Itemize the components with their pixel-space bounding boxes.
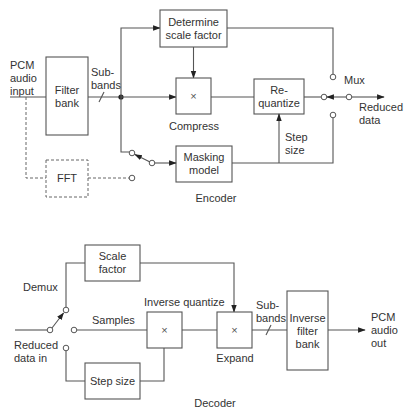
demux-label: Demux bbox=[23, 281, 58, 293]
svg-text:Masking: Masking bbox=[184, 151, 225, 163]
mux-pivot bbox=[346, 94, 352, 100]
switch-arm bbox=[135, 155, 150, 163]
encoder-title: Encoder bbox=[196, 192, 237, 204]
mux-label: Mux bbox=[344, 74, 365, 86]
switch-pivot bbox=[149, 160, 155, 166]
svg-text:size: size bbox=[285, 144, 305, 156]
encoder-input-label: PCM audio input bbox=[10, 59, 37, 97]
switch-contact-subbands bbox=[129, 150, 135, 156]
decoder-section: Demux Reduced data in Scale factor Sampl… bbox=[14, 245, 398, 409]
to-switch-line bbox=[121, 97, 129, 152]
expand-label: Expand bbox=[216, 352, 253, 364]
svg-text:quantize: quantize bbox=[258, 97, 300, 109]
svg-text:Step: Step bbox=[285, 131, 308, 143]
svg-text:Sub-: Sub- bbox=[256, 299, 280, 311]
expand-block: × bbox=[217, 312, 252, 348]
svg-text:×: × bbox=[161, 324, 167, 336]
svg-text:PCM: PCM bbox=[10, 59, 34, 71]
decoder-subbands-label: Sub- bands bbox=[256, 299, 286, 324]
masking-model-block: Masking model bbox=[176, 146, 232, 182]
demux-contact-samples bbox=[71, 327, 77, 333]
svg-text:data in: data in bbox=[14, 352, 47, 364]
mux-contact-step bbox=[330, 112, 336, 118]
inverse-quantize-label: Inverse quantize bbox=[144, 296, 225, 308]
svg-text:Inverse: Inverse bbox=[289, 312, 325, 324]
filter-bank-block: Filter bank bbox=[46, 57, 88, 135]
mpeg-audio-codec-diagram: PCM audio input Filter bank Sub- bands D bbox=[0, 0, 410, 416]
compress-label: Compress bbox=[169, 120, 220, 132]
svg-text:factor: factor bbox=[99, 263, 127, 275]
decoder-title: Decoder bbox=[194, 397, 236, 409]
svg-text:scale factor: scale factor bbox=[165, 29, 222, 41]
svg-text:Filter: Filter bbox=[55, 84, 80, 96]
svg-text:model: model bbox=[189, 164, 219, 176]
step-to-inverse-quantize-line bbox=[140, 348, 164, 381]
demux-contact-step bbox=[63, 345, 69, 351]
masking-to-mux-line bbox=[232, 118, 333, 163]
input-to-fft-dashed-line bbox=[26, 97, 46, 178]
svg-text:audio: audio bbox=[10, 72, 37, 84]
scale-factor-block: Scale factor bbox=[85, 245, 140, 281]
svg-text:Reduced: Reduced bbox=[359, 101, 403, 113]
svg-text:PCM: PCM bbox=[371, 311, 395, 323]
decoder-input-label: Reduced data in bbox=[14, 339, 58, 364]
inverse-quantize-block: × bbox=[147, 312, 182, 348]
demux-contact-scale bbox=[63, 307, 69, 313]
step-size-block: Step size bbox=[85, 363, 140, 399]
demux-to-step-line bbox=[66, 351, 85, 381]
svg-text:Scale: Scale bbox=[99, 250, 127, 262]
inverse-filter-bank-block: Inverse filter bank bbox=[287, 291, 328, 370]
svg-text:data: data bbox=[359, 114, 381, 126]
svg-text:Reduced: Reduced bbox=[14, 339, 58, 351]
demux-to-scale-line bbox=[66, 263, 85, 307]
fft-block: FFT bbox=[46, 160, 88, 197]
scale-to-mux-line bbox=[227, 28, 333, 74]
svg-text:input: input bbox=[10, 85, 34, 97]
samples-label: Samples bbox=[92, 314, 135, 326]
mux-contact-samples bbox=[321, 94, 327, 100]
decoder-output-label: PCM audio out bbox=[371, 311, 398, 349]
svg-text:Re-: Re- bbox=[270, 84, 288, 96]
demux-pivot bbox=[47, 327, 53, 333]
svg-text:Sub-: Sub- bbox=[91, 66, 115, 78]
requantize-block: Re- quantize bbox=[254, 79, 304, 114]
svg-text:Determine: Determine bbox=[168, 16, 219, 28]
determine-scale-factor-block: Determine scale factor bbox=[160, 10, 227, 47]
to-determine-line bbox=[121, 28, 160, 97]
encoder-output-label: Reduced data bbox=[359, 101, 403, 126]
svg-text:bank: bank bbox=[55, 97, 79, 109]
svg-text:audio: audio bbox=[371, 324, 398, 336]
svg-text:FFT: FFT bbox=[57, 172, 77, 184]
mux-contact-scale bbox=[330, 74, 336, 80]
encoder-section: PCM audio input Filter bank Sub- bands D bbox=[10, 10, 403, 204]
svg-text:×: × bbox=[231, 324, 237, 336]
demux-arm bbox=[52, 313, 64, 328]
svg-text:bands: bands bbox=[256, 312, 286, 324]
svg-text:bands: bands bbox=[91, 79, 121, 91]
svg-text:filter: filter bbox=[297, 325, 318, 337]
encoder-subbands-label: Sub- bands bbox=[91, 66, 121, 91]
svg-text:bank: bank bbox=[296, 338, 320, 350]
switch-contact-fft bbox=[129, 175, 135, 181]
svg-text:out: out bbox=[371, 337, 386, 349]
svg-text:Step size: Step size bbox=[90, 375, 135, 387]
encoder-step-size-label: Step size bbox=[285, 131, 308, 156]
compress-block: × bbox=[176, 78, 211, 114]
svg-text:×: × bbox=[190, 90, 196, 102]
